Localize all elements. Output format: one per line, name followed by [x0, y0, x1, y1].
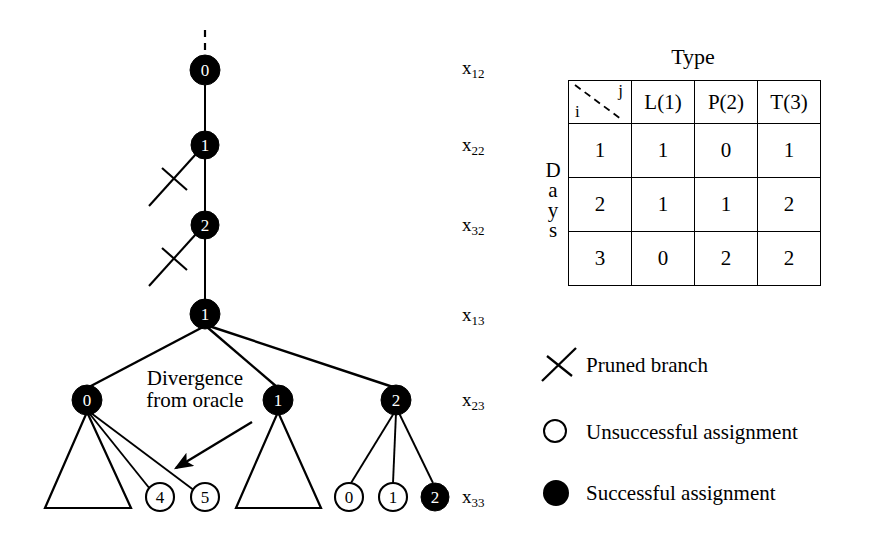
matrix-corner-cell: i j	[569, 81, 632, 124]
tree-node-n3[interactable]: 1	[190, 299, 220, 329]
legend-item-successful-assignment: Successful assignment	[530, 473, 776, 513]
level-label-x22: x22	[462, 135, 485, 157]
open-circle-icon-wrap	[530, 412, 586, 452]
matrix-row: 1 1 0 1	[569, 124, 821, 178]
level-label-x13-sub: 13	[472, 313, 485, 328]
pruned-branches	[149, 154, 196, 286]
level-label-x23-sub: 23	[472, 398, 485, 413]
level-label-x32-sub: 32	[472, 223, 485, 238]
tree-node-n2-label: 2	[201, 216, 210, 235]
matrix-row-index-1: 2	[569, 178, 632, 232]
tree-leaf-0-label: 0	[345, 488, 354, 507]
tree-node-n1-label: 1	[201, 136, 210, 155]
matrix-cell-0-0: 1	[632, 124, 695, 178]
tree-node-n2[interactable]: 2	[191, 211, 219, 239]
divergence-annotation-line1: Divergence	[120, 367, 270, 389]
days-letter-d: D	[543, 160, 563, 180]
legend-item-unsuccessful-assignment: Unsuccessful assignment	[530, 412, 798, 452]
matrix-row: 3 0 2 2	[569, 232, 821, 286]
level-label-x12: x12	[462, 58, 485, 80]
matrix-caption: Type	[568, 44, 818, 70]
pruned-branch-stub-2	[149, 234, 196, 286]
matrix-cell-1-2: 2	[758, 178, 821, 232]
tree-leaf-2[interactable]: 2	[421, 483, 449, 511]
matrix-corner-i: i	[575, 102, 580, 122]
matrix-cell-1-0: 1	[632, 178, 695, 232]
matrix-cell-2-1: 2	[695, 232, 758, 286]
tree-leaf-0[interactable]: 0	[335, 483, 363, 511]
level-label-x12-sub: 12	[472, 66, 485, 81]
legend-item-pruned-branch: Pruned branch	[530, 345, 708, 385]
open-circle-icon	[543, 419, 567, 443]
matrix-col-header-0: L(1)	[632, 81, 695, 124]
matrix-cell-2-0: 0	[632, 232, 695, 286]
divergence-annotation: Divergence from oracle	[120, 367, 270, 411]
tree-node-n1[interactable]: 1	[191, 131, 219, 159]
cross-icon-placeholder	[530, 345, 586, 385]
edge-l5c-leaf1	[393, 413, 396, 483]
legend-label-unsuccessful-assignment: Unsuccessful assignment	[586, 420, 798, 445]
divergence-annotation-line2: from oracle	[120, 389, 270, 411]
matrix-table: i j L(1) P(2) T(3) 1 1 0 1 2 1 1 2 3	[568, 80, 821, 286]
matrix-row-index-0: 1	[569, 124, 632, 178]
divergence-arrow	[176, 422, 252, 468]
filled-circle-icon-wrap	[530, 473, 586, 513]
days-letter-s: s	[543, 220, 563, 240]
matrix-header-row: i j L(1) P(2) T(3)	[569, 81, 821, 124]
level-label-x33: x33	[462, 487, 485, 509]
level-label-x22-sub: 22	[472, 143, 485, 158]
level-label-x13: x13	[462, 305, 485, 327]
tree-edges	[89, 30, 433, 491]
subtree-triangles	[45, 412, 321, 508]
tree-leaf-4-label: 4	[156, 488, 165, 507]
tree-node-l5b-label: 1	[274, 391, 283, 410]
figure-canvas: 0 1 2 1 0 1	[0, 0, 874, 544]
matrix-cell-0-1: 0	[695, 124, 758, 178]
legend-label-pruned-branch: Pruned branch	[586, 353, 708, 378]
edge-l5c-leaf0	[351, 413, 394, 483]
tree-node-n3-label: 1	[201, 305, 210, 324]
tree-leaf-1[interactable]: 1	[379, 483, 407, 511]
tree-node-l5a[interactable]: 0	[72, 385, 102, 415]
tree-leaf-2-label: 2	[431, 488, 440, 507]
tree-leaf-5[interactable]: 5	[191, 483, 219, 511]
level-label-x32: x32	[462, 215, 485, 237]
matrix-cell-0-2: 1	[758, 124, 821, 178]
type-days-matrix: i j L(1) P(2) T(3) 1 1 0 1 2 1 1 2 3	[568, 80, 821, 286]
tree-leaf-1-label: 1	[389, 488, 398, 507]
matrix-col-header-2: T(3)	[758, 81, 821, 124]
tree-node-root-label: 0	[201, 61, 210, 80]
level-label-x23: x23	[462, 390, 485, 412]
matrix-cell-1-1: 1	[695, 178, 758, 232]
days-letter-y: y	[543, 200, 563, 220]
pruned-branch-stub-1	[149, 154, 196, 206]
edge-l5c-leaf2	[399, 413, 433, 483]
tree-node-root[interactable]: 0	[190, 55, 220, 85]
subtree-triangle-left	[45, 412, 131, 508]
matrix-row-index-2: 3	[569, 232, 632, 286]
filled-circle-icon	[543, 480, 569, 506]
tree-leaf-5-label: 5	[201, 488, 210, 507]
tree-leaf-4[interactable]: 4	[146, 483, 174, 511]
matrix-col-header-1: P(2)	[695, 81, 758, 124]
legend-label-successful-assignment: Successful assignment	[586, 481, 776, 506]
level-label-x33-sub: 33	[472, 495, 485, 510]
tree-node-l5c-label: 2	[392, 391, 401, 410]
subtree-triangle-middle	[236, 412, 321, 508]
days-letter-a: a	[543, 180, 563, 200]
tree-node-l5a-label: 0	[83, 391, 92, 410]
matrix-cell-2-2: 2	[758, 232, 821, 286]
tree-node-l5c[interactable]: 2	[381, 385, 411, 415]
matrix-row-axis-label: D a y s	[543, 160, 563, 240]
matrix-corner-j: j	[618, 81, 623, 101]
matrix-row: 2 1 1 2	[569, 178, 821, 232]
